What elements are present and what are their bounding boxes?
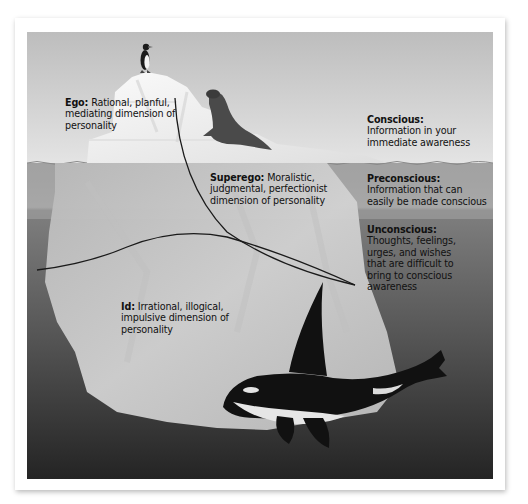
id-term: Id: (121, 301, 135, 312)
superego-term: Superego: (210, 172, 264, 183)
conscious-term: Conscious: (367, 114, 482, 125)
conscious-label: Conscious: Information in your immediate… (367, 114, 482, 148)
superego-label: Superego: Moralistic, judgmental, perfec… (210, 172, 360, 206)
unconscious-description: Thoughts, feelings, urges, and wishes th… (367, 235, 472, 292)
unconscious-label: Unconscious: Thoughts, feelings, urges, … (367, 224, 472, 292)
ego-label: Ego: Rational, planful, mediating dimens… (65, 97, 195, 131)
id-label: Id: Irrational, illogical, impulsive dim… (121, 301, 231, 335)
ego-term: Ego: (65, 97, 88, 108)
preconscious-description: Information that can easily be made cons… (367, 184, 492, 207)
id-description: Irrational, illogical, impulsive dimensi… (121, 301, 229, 335)
preconscious-label: Preconscious: Information that can easil… (367, 173, 492, 207)
conscious-description: Information in your immediate awareness (367, 125, 482, 148)
unconscious-term: Unconscious: (367, 224, 472, 235)
preconscious-term: Preconscious: (367, 173, 492, 184)
